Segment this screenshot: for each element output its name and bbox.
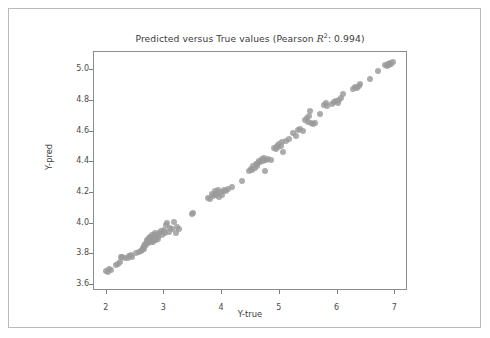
scatter-chart: Predicted versus True values (Pearson R2…	[0, 0, 490, 338]
x-tick-mark	[221, 290, 222, 294]
y-tick-label-wrap: 4.0	[60, 218, 89, 228]
y-tick-label: 4.6	[67, 126, 89, 135]
x-tick-mark	[106, 290, 107, 294]
x-axis-label: Y-true	[93, 309, 407, 319]
data-point	[312, 120, 318, 126]
data-point	[108, 267, 114, 273]
figure-page: Predicted versus True values (Pearson R2…	[0, 0, 490, 338]
data-point	[367, 76, 373, 82]
y-tick-label: 4.0	[67, 218, 89, 227]
data-point	[340, 91, 346, 97]
y-tick-label-wrap: 3.6	[60, 279, 89, 289]
x-tick-mark	[394, 290, 395, 294]
r-symbol: R	[317, 33, 324, 44]
data-point	[286, 136, 292, 142]
y-tick-label: 3.6	[67, 279, 89, 288]
data-points-layer	[93, 51, 407, 290]
chart-title-prefix: Predicted versus True values (Pearson	[135, 33, 316, 44]
x-tick-mark	[163, 290, 164, 294]
data-point	[293, 133, 299, 139]
x-tick-mark	[337, 290, 338, 294]
y-axis-label: Y-pred	[44, 144, 54, 170]
data-point	[317, 111, 323, 117]
y-tick-label: 4.8	[67, 95, 89, 104]
data-point	[306, 113, 312, 119]
data-point	[190, 210, 196, 216]
chart-title: Predicted versus True values (Pearson R2…	[93, 33, 407, 44]
y-tick-label-wrap: 4.6	[60, 126, 89, 136]
y-tick-label: 4.4	[67, 156, 89, 165]
y-tick-label-wrap: 5.0	[60, 64, 89, 74]
y-tick-label-wrap: 4.4	[60, 156, 89, 166]
y-tick-label: 3.8	[67, 248, 89, 257]
data-point	[262, 168, 268, 174]
data-point	[300, 128, 306, 134]
data-point	[229, 184, 235, 190]
data-point	[176, 226, 182, 232]
data-point	[357, 81, 363, 87]
data-point	[268, 157, 274, 163]
y-tick-label-wrap: 4.8	[60, 95, 89, 105]
y-tick-label: 4.2	[67, 187, 89, 196]
y-tick-label-wrap: 4.2	[60, 187, 89, 197]
data-point	[239, 178, 245, 184]
y-tick-label-wrap: 3.8	[60, 248, 89, 258]
data-point	[307, 108, 313, 114]
chart-title-suffix: : 0.994)	[328, 33, 365, 44]
y-tick-label: 5.0	[67, 64, 89, 73]
data-point	[280, 149, 286, 155]
x-tick-mark	[279, 290, 280, 294]
data-point	[390, 59, 396, 65]
data-point	[375, 68, 381, 74]
